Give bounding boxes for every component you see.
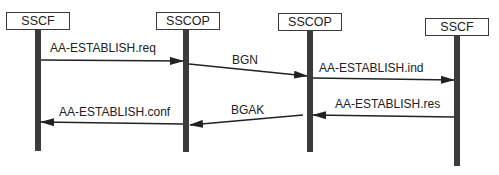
lifeline-sscop-right — [307, 25, 313, 152]
entity-box-sscop-left: SSCOP — [156, 12, 220, 30]
label-bgn: BGN — [232, 53, 258, 67]
label-establish-res: AA-ESTABLISH.res — [335, 97, 440, 111]
arrow-establish-conf — [41, 122, 183, 124]
entity-box-sscop-right: SSCOP — [278, 13, 342, 31]
lifeline-sscop-left — [183, 25, 189, 152]
label-bgak: BGAK — [231, 103, 264, 117]
label-establish-req: AA-ESTABLISH.req — [50, 41, 156, 55]
arrow-establish-req — [41, 60, 183, 61]
arrow-establish-res — [313, 115, 454, 117]
label-establish-ind: AA-ESTABLISH.ind — [319, 61, 423, 75]
label-establish-conf: AA-ESTABLISH.conf — [59, 105, 170, 119]
lifeline-sscf-right — [454, 30, 460, 166]
arrow-establish-ind — [313, 78, 454, 80]
entity-box-sscf-right: SSCF — [425, 18, 489, 36]
entity-box-sscf-left: SSCF — [6, 12, 70, 30]
